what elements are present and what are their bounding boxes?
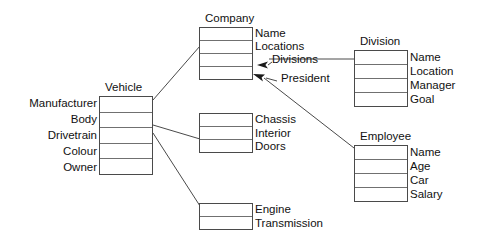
entity-row[interactable] [200,54,252,67]
arrowhead-president-icon [253,74,265,82]
entity-row[interactable] [200,127,252,140]
entity-row[interactable] [100,128,152,144]
entity-row[interactable] [200,67,252,79]
entity-row[interactable] [200,140,252,152]
attribute-label-employee-1: Age [410,160,430,173]
entity-row[interactable] [100,144,152,160]
connector-vehicle-body-detail [153,125,200,139]
entity-box-company[interactable] [199,27,253,80]
entity-row[interactable] [355,65,407,79]
attribute-label-vehicle-1: Body [71,113,97,126]
entity-row[interactable] [355,188,407,201]
entity-title-division: Division [360,35,400,48]
entity-box-drivetrain-detail[interactable] [199,203,253,230]
attribute-label-body-detail-0: Chassis [255,113,296,126]
attribute-label-body-detail-1: Interior [255,127,291,140]
connector-vehicle-drivetrain-detail [153,133,200,206]
attribute-label-employee-2: Car [410,174,429,187]
entity-row[interactable] [100,97,152,113]
attribute-label-division-1: Location [410,65,453,78]
attribute-label-division-0: Name [410,51,441,64]
entity-row[interactable] [200,28,252,41]
attribute-label-employee-0: Name [410,146,441,159]
entity-row[interactable] [100,159,152,174]
arrowhead-divisions-icon [257,62,268,69]
attribute-label-vehicle-3: Colour [63,145,97,158]
entity-box-vehicle[interactable] [99,96,153,175]
entity-box-body-detail[interactable] [199,113,253,153]
connector-president-stub [266,78,277,81]
entity-box-employee[interactable] [354,145,408,202]
edge-label-divisions-label: Divisions [272,53,318,66]
attribute-label-drivetrain-detail-1: Transmission [255,217,323,230]
entity-row[interactable] [100,113,152,129]
attribute-label-vehicle-2: Drivetrain [48,129,97,142]
entity-row[interactable] [355,146,407,160]
entity-box-division[interactable] [354,50,408,107]
entity-title-company: Company [205,12,254,25]
edge-label-president-label: President [281,72,330,85]
attribute-label-employee-3: Salary [410,188,443,201]
entity-row[interactable] [355,79,407,93]
connector-vehicle-company [153,46,200,100]
entity-row[interactable] [355,174,407,188]
entity-title-vehicle: Vehicle [105,81,142,94]
attribute-label-division-3: Goal [410,93,434,106]
attribute-label-drivetrain-detail-0: Engine [255,203,291,216]
attribute-label-division-2: Manager [410,79,455,92]
entity-row[interactable] [200,41,252,54]
attribute-label-company-1: Locations [255,40,304,53]
attribute-label-vehicle-0: Manufacturer [29,97,97,110]
entity-row[interactable] [355,160,407,174]
entity-row[interactable] [355,51,407,65]
attribute-label-vehicle-4: Owner [63,161,97,174]
attribute-label-body-detail-2: Doors [255,140,286,153]
entity-row[interactable] [355,93,407,106]
entity-row[interactable] [200,217,252,229]
attribute-label-company-0: Name [255,27,286,40]
entity-row[interactable] [200,204,252,217]
entity-row[interactable] [200,114,252,127]
entity-title-employee: Employee [360,130,411,143]
diagram-canvas: VehicleManufacturerBodyDrivetrainColourO… [0,0,478,245]
